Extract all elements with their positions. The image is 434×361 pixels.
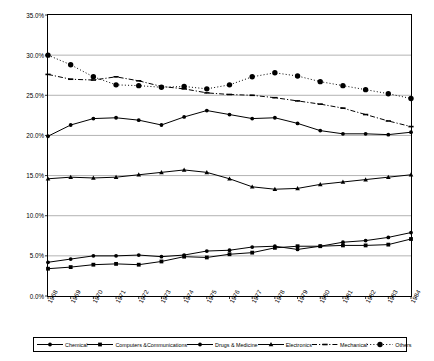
legend-label: Drugs & Medicine — [214, 342, 258, 348]
data-point-marker — [198, 343, 202, 347]
legend-swatch-circle-icon — [187, 340, 213, 349]
legend-swatch-dash-icon — [312, 340, 338, 349]
legend-label: Computers &Communications — [114, 342, 187, 348]
legend-item-chemical[interactable]: Chemical — [37, 340, 87, 349]
legend-label: Chemical — [64, 342, 87, 348]
y-axis-tick-label: 30.0% — [0, 52, 44, 59]
legend-label: Electronics — [285, 342, 312, 348]
legend-swatch-bigdot-icon — [367, 340, 393, 349]
data-point-marker — [99, 343, 103, 347]
data-point-marker — [322, 344, 327, 346]
data-point-marker — [48, 343, 52, 347]
y-axis-tick-label: 20.0% — [0, 132, 44, 139]
y-axis-tick-label: 25.0% — [0, 92, 44, 99]
legend-item-mechanical[interactable]: Mechanical — [312, 340, 367, 349]
line-chart: 0.0%5.0%10.0%15.0%20.0%25.0%30.0%35.0% 1… — [0, 0, 434, 361]
legend-item-computers-communications[interactable]: Computers &Communications — [87, 340, 187, 349]
y-axis-tick-label: 15.0% — [0, 172, 44, 179]
data-point-marker — [378, 342, 383, 347]
legend-label: Mechanical — [339, 342, 367, 348]
plot-area — [47, 14, 412, 297]
legend-label: Others — [394, 342, 411, 348]
y-axis-tick-label: 10.0% — [0, 212, 44, 219]
legend-item-electronics[interactable]: Electronics — [258, 340, 312, 349]
y-axis-tick-label: 0.0% — [0, 293, 44, 300]
chart-legend: ChemicalComputers &CommunicationsDrugs &… — [33, 337, 407, 352]
legend-swatch-triangle-icon — [258, 340, 284, 349]
legend-item-others[interactable]: Others — [367, 340, 411, 349]
y-axis-tick-label: 35.0% — [0, 12, 44, 19]
legend-item-drugs-medicine[interactable]: Drugs & Medicine — [187, 340, 258, 349]
y-axis-tick-label: 5.0% — [0, 252, 44, 259]
legend-swatch-square-icon — [87, 340, 113, 349]
legend-swatch-circle-icon — [37, 340, 63, 349]
